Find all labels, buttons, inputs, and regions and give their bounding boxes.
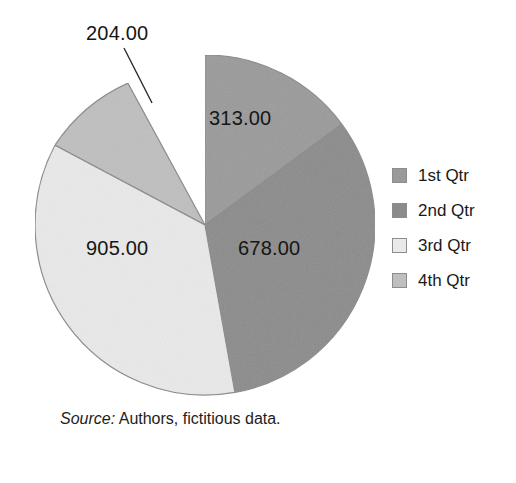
- legend-item-3rd-qtr: 3rd Qtr: [392, 228, 510, 263]
- legend-label-1st-qtr: 1st Qtr: [418, 166, 469, 186]
- slice-value-label-4th-qtr: 204.00: [86, 22, 148, 45]
- legend-label-4th-qtr: 4th Qtr: [418, 271, 470, 291]
- pie-svg: [0, 0, 400, 410]
- slice-value-label-2nd-qtr: 678.00: [238, 237, 300, 260]
- legend-swatch-icon-4th-qtr: [392, 273, 407, 288]
- pie-chart-figure: 313.00 678.00 905.00 204.00 1st Qtr 2nd …: [0, 0, 516, 483]
- legend-swatch-icon-3rd-qtr: [392, 238, 407, 253]
- source-note-label: Source:: [60, 410, 115, 427]
- source-note-text: Authors, fictitious data.: [115, 410, 280, 427]
- chart-legend: 1st Qtr 2nd Qtr 3rd Qtr 4th Qtr: [392, 158, 510, 298]
- pie-plot-area: 313.00 678.00 905.00 204.00: [0, 0, 400, 410]
- slice-value-label-1st-qtr: 313.00: [209, 107, 271, 130]
- legend-swatch-icon-1st-qtr: [392, 168, 407, 183]
- legend-swatch-icon-2nd-qtr: [392, 203, 407, 218]
- legend-item-4th-qtr: 4th Qtr: [392, 263, 510, 298]
- slice-value-label-3rd-qtr: 905.00: [86, 237, 148, 260]
- legend-item-2nd-qtr: 2nd Qtr: [392, 193, 510, 228]
- source-note: Source: Authors, fictitious data.: [60, 410, 281, 428]
- legend-label-2nd-qtr: 2nd Qtr: [418, 201, 475, 221]
- legend-label-3rd-qtr: 3rd Qtr: [418, 236, 471, 256]
- legend-item-1st-qtr: 1st Qtr: [392, 158, 510, 193]
